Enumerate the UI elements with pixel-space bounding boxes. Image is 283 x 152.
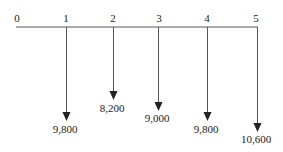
period-label-0: 0	[14, 12, 20, 24]
period-label-2: 2	[110, 12, 116, 24]
period-label-3: 3	[156, 12, 162, 24]
amount-label-5: 10,600	[241, 133, 271, 145]
cash-flow-arrow-4	[204, 27, 212, 121]
amount-label-1: 9,800	[53, 123, 78, 135]
timeline-diagram	[0, 0, 283, 152]
cash-flow-arrow-5	[254, 27, 262, 132]
amount-label-2: 8,200	[100, 102, 125, 114]
period-label-1: 1	[63, 12, 69, 24]
amount-label-3: 9,000	[145, 112, 170, 124]
period-label-5: 5	[253, 12, 259, 24]
cash-flow-arrow-3	[155, 27, 163, 111]
cash-flow-arrow-1	[63, 27, 71, 121]
period-label-4: 4	[204, 12, 210, 24]
amount-label-4: 9,800	[194, 123, 219, 135]
cash-flow-arrow-2	[110, 27, 118, 100]
